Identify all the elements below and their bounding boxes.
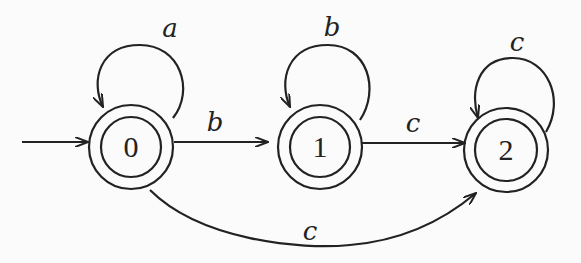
transition-2-2-label: c xyxy=(510,27,525,57)
transition-0-2-label: c xyxy=(303,216,318,246)
transition-1-2-label: c xyxy=(406,108,421,138)
state-2: 2 xyxy=(464,108,548,192)
state-1: 1 xyxy=(278,105,362,189)
state-diagram: 0 1 2 a b b c c c xyxy=(0,0,581,263)
state-0: 0 xyxy=(89,105,173,189)
transition-1-1-loop xyxy=(285,45,369,120)
transition-1-1-label: b xyxy=(324,12,341,42)
state-1-label: 1 xyxy=(313,130,328,163)
state-0-label: 0 xyxy=(124,130,139,163)
transition-0-1-label: b xyxy=(207,107,224,137)
state-2-label: 2 xyxy=(499,133,514,166)
transition-0-0-label: a xyxy=(162,13,178,43)
